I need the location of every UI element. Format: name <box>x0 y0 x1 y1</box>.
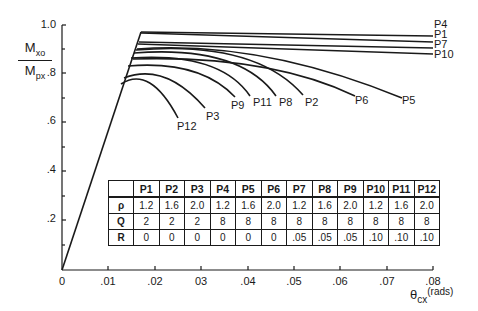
table-header-cell: P8 <box>312 181 338 198</box>
curve-label-p5: P5 <box>402 95 415 106</box>
table-cell: 8 <box>261 214 287 230</box>
table-cell: 8 <box>389 214 415 230</box>
table-cell: 2 <box>159 214 185 230</box>
table-cell: 8 <box>338 214 364 230</box>
table-header-cell <box>109 181 134 198</box>
table-header-cell: P5 <box>236 181 262 198</box>
x-tick-label: 03 <box>186 275 216 287</box>
table-cell: .10 <box>389 230 415 246</box>
y-tick-label: .2 <box>26 212 56 224</box>
table-cell: 0 <box>159 230 185 246</box>
table-cell: 1.6 <box>159 197 185 214</box>
table-header-cell: P12 <box>414 181 440 198</box>
table-cell: 8 <box>210 214 236 230</box>
table-header-cell: P7 <box>287 181 313 198</box>
table-header-cell: P11 <box>389 181 415 198</box>
curve-label-p6: P6 <box>355 95 368 106</box>
table-cell: 8 <box>312 214 338 230</box>
curve-label-p8: P8 <box>279 97 292 108</box>
table-header-cell: P3 <box>185 181 211 198</box>
curve-p12 <box>121 79 178 118</box>
curve-label-p11: P11 <box>253 97 272 108</box>
x-axis-label: θcx(rads) <box>410 286 453 305</box>
table-cell: .10 <box>414 230 440 246</box>
parameter-table: P1P2P3P4P5P6P7P8P9P10P11P12ρ1.21.62.01.2… <box>108 180 440 246</box>
table-header-row: P1P2P3P4P5P6P7P8P9P10P11P12 <box>109 181 440 198</box>
curve-label-p10: P10 <box>434 49 454 60</box>
table-cell: .10 <box>363 230 389 246</box>
table-header-cell: P9 <box>338 181 364 198</box>
x-tick-label: .05 <box>279 275 309 287</box>
table-cell: 1.6 <box>389 197 415 214</box>
x-tick-label: .01 <box>93 275 123 287</box>
table-cell: 2.0 <box>185 197 211 214</box>
x-tick-label: .06 <box>325 275 355 287</box>
y-tick-label: 1.0 <box>26 18 56 30</box>
table-header-cell: P2 <box>159 181 185 198</box>
table-cell: 8 <box>287 214 313 230</box>
table-cell: 8 <box>414 214 440 230</box>
table-cell: 1.2 <box>363 197 389 214</box>
table-cell: 8 <box>363 214 389 230</box>
y-tick-label: .4 <box>26 163 56 175</box>
table-cell: 1.6 <box>312 197 338 214</box>
table-cell: 2.0 <box>414 197 440 214</box>
table-cell: 1.2 <box>134 197 160 214</box>
table-cell: 2 <box>185 214 211 230</box>
table-row: ρ1.21.62.01.21.62.01.21.62.01.21.62.0 <box>109 197 440 214</box>
y-tick-label: .6 <box>26 114 56 126</box>
chart-plot-area <box>0 0 478 311</box>
curve-label-p12: P12 <box>177 121 197 132</box>
curve-label-p2: P2 <box>305 97 318 108</box>
x-tick-label: .04 <box>233 275 263 287</box>
table-cell: 0 <box>210 230 236 246</box>
table-cell: 2.0 <box>338 197 364 214</box>
curve-p2 <box>136 48 303 95</box>
table-header-cell: P6 <box>261 181 287 198</box>
table-cell: 2.0 <box>261 197 287 214</box>
table-cell: .05 <box>312 230 338 246</box>
table-cell: 0 <box>261 230 287 246</box>
table-cell: 0 <box>185 230 211 246</box>
table-cell: 1.2 <box>287 197 313 214</box>
table-cell: .05 <box>287 230 313 246</box>
table-row: R000000.05.05.05.10.10.10 <box>109 230 440 246</box>
table-row-header: Q <box>109 214 134 230</box>
table-row: Q222888888888 <box>109 214 440 230</box>
x-tick-label: 0 <box>47 275 77 287</box>
table-row-header: ρ <box>109 197 134 214</box>
table-cell: 2 <box>134 214 160 230</box>
table-cell: 1.2 <box>210 197 236 214</box>
curve-p5 <box>137 48 402 98</box>
table-cell: 1.6 <box>236 197 262 214</box>
table-cell: 0 <box>236 230 262 246</box>
x-tick-label: .07 <box>372 275 402 287</box>
table-header-cell: P1 <box>134 181 160 198</box>
curve-label-p3: P3 <box>206 111 219 122</box>
x-tick-label: .02 <box>140 275 170 287</box>
table-cell: 0 <box>134 230 160 246</box>
curve-label-p9: P9 <box>231 100 244 111</box>
y-tick-label: .8 <box>26 66 56 78</box>
table-header-cell: P4 <box>210 181 236 198</box>
table-row-header: R <box>109 230 134 246</box>
table-header-cell: P10 <box>363 181 389 198</box>
table-cell: 8 <box>236 214 262 230</box>
table-cell: .05 <box>338 230 364 246</box>
